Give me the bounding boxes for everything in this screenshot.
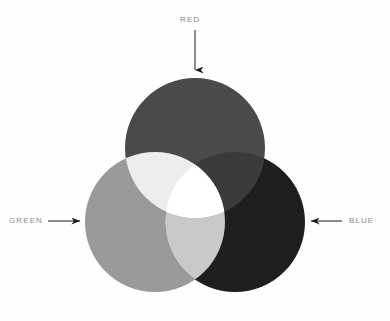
venn-diagram-canvas — [0, 0, 390, 321]
blue-label: BLUE — [349, 217, 374, 225]
additive-color-mixing-diagram: RED GREEN BLUE — [0, 0, 390, 321]
red-label: RED — [180, 16, 200, 24]
green-label: GREEN — [9, 217, 43, 225]
